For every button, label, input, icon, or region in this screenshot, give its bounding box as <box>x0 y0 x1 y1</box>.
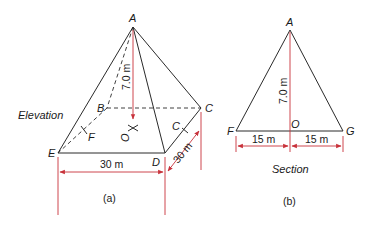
base-depth-label: 30 m <box>170 139 194 165</box>
left-half-label: 15 m <box>252 133 276 145</box>
label-C: C <box>205 102 213 114</box>
hidden-edge-BE <box>58 108 107 153</box>
height-label: 7.0 m <box>277 77 289 104</box>
label-O: O <box>291 118 300 130</box>
caption-b: (b) <box>283 195 296 207</box>
label-F: F <box>88 131 96 143</box>
label-G: G <box>346 125 355 137</box>
label-D: D <box>152 156 160 168</box>
label-B: B <box>97 102 104 114</box>
figure-b-section: A F G O 7.0 m 15 m 15 m Section (b) <box>227 16 355 207</box>
edge-AG <box>290 30 343 131</box>
right-half-label: 15 m <box>305 133 329 145</box>
label-O: O <box>119 133 131 142</box>
caption-a: (a) <box>103 192 116 204</box>
pyramid-diagram: A B C C F E D O 7.0 m 30 m 30 m Elevatio… <box>0 0 370 228</box>
base-width-label: 30 m <box>100 158 124 170</box>
label-E: E <box>48 147 56 159</box>
label-A: A <box>128 12 136 24</box>
label-F: F <box>227 125 235 137</box>
section-label: Section <box>272 163 309 175</box>
elevation-label: Elevation <box>18 109 63 121</box>
label-A: A <box>285 16 293 28</box>
label-C-mid: C <box>172 120 180 132</box>
height-label: 7.0 m <box>120 63 132 90</box>
figure-a-elevation: A B C C F E D O 7.0 m 30 m 30 m Elevatio… <box>18 12 213 215</box>
